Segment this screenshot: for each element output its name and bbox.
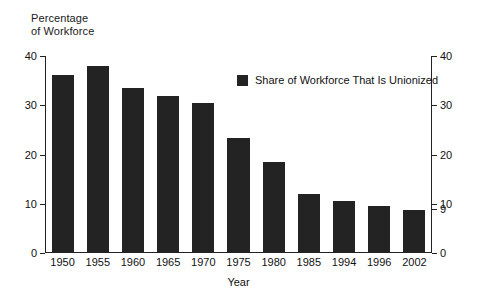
y-tick-label-left-20: 20 [25, 149, 37, 161]
bar-1994 [333, 201, 355, 253]
bar-2002 [403, 210, 425, 253]
legend-swatch-icon [237, 75, 248, 86]
bar-1975 [227, 138, 249, 253]
bar-1955 [87, 66, 109, 253]
y-tick-label-left-40: 40 [25, 50, 37, 62]
bar-1980 [263, 162, 285, 253]
bar-1965 [157, 96, 179, 253]
bar-1985 [298, 194, 320, 253]
x-tick-label-1994: 1994 [332, 256, 356, 268]
x-axis-title: Year [45, 276, 432, 288]
bar-1950 [52, 75, 74, 253]
bar-1960 [122, 88, 144, 253]
y-tick-label-left-10: 10 [25, 198, 37, 210]
legend-label: Share of Workforce That Is Unionized [255, 74, 438, 86]
union-membership-bar-chart: Percentage of Workforce 010203040 091020… [0, 0, 496, 299]
bar-1970 [192, 103, 214, 253]
y-tick-right-30 [432, 105, 437, 106]
x-tick-label-2002: 2002 [402, 256, 426, 268]
x-tick-label-1965: 1965 [156, 256, 180, 268]
y-tick-label-right-0: 0 [440, 247, 446, 259]
y-axis-title: Percentage of Workforce [31, 12, 94, 38]
y-tick-right-9 [432, 209, 437, 210]
x-tick-label-1975: 1975 [226, 256, 250, 268]
y-tick-label-right-30: 30 [440, 99, 452, 111]
y-tick-right-10 [432, 204, 437, 205]
y-tick-right-0 [432, 253, 437, 254]
y-tick-label-right-10: 10 [440, 198, 452, 210]
x-axis-tick-labels: 1950195519601965197019751980198519941996… [45, 256, 432, 272]
y-tick-label-right-20: 20 [440, 149, 452, 161]
x-tick-label-1970: 1970 [191, 256, 215, 268]
y-tick-right-20 [432, 155, 437, 156]
y-tick-right-40 [432, 56, 437, 57]
x-tick-label-1980: 1980 [261, 256, 285, 268]
x-tick-label-1996: 1996 [367, 256, 391, 268]
chart-legend: Share of Workforce That Is Unionized [237, 74, 438, 86]
x-tick-label-1950: 1950 [50, 256, 74, 268]
x-tick-label-1955: 1955 [86, 256, 110, 268]
y-tick-left-0 [40, 253, 45, 254]
y-tick-label-right-40: 40 [440, 50, 452, 62]
bar-1996 [368, 206, 390, 253]
y-tick-label-left-30: 30 [25, 99, 37, 111]
y-tick-label-left-0: 0 [31, 247, 37, 259]
x-tick-label-1985: 1985 [297, 256, 321, 268]
x-tick-label-1960: 1960 [121, 256, 145, 268]
